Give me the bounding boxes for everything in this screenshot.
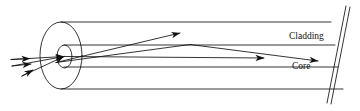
- incoming-ray-stub-1: [11, 59, 30, 60]
- incoming-ray-stub-3: [22, 70, 33, 76]
- cut-edge-line-outer: [331, 7, 350, 104]
- cladding-label: Cladding: [289, 31, 324, 41]
- refracted-ray-steep: [56, 33, 180, 63]
- optical-fiber-diagram: Cladding Core: [0, 0, 360, 111]
- cladding-end-face-ellipse: [40, 22, 82, 89]
- core-label: Core: [292, 61, 310, 71]
- cut-edge-line-inner: [327, 6, 346, 103]
